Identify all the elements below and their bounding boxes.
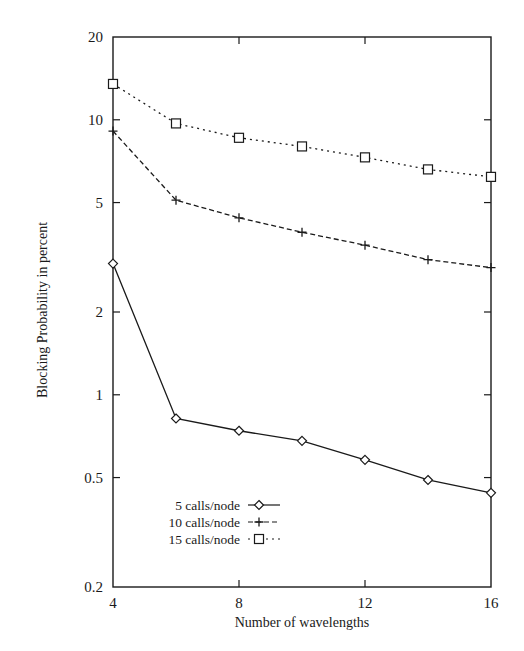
plus-marker-icon [361, 241, 370, 250]
series-line [113, 264, 491, 493]
square-marker-icon [361, 153, 370, 162]
diamond-marker-icon [235, 426, 244, 435]
series-line [113, 84, 491, 177]
square-marker-icon [172, 119, 181, 128]
x-tick-label: 4 [109, 595, 117, 611]
x-tick-label: 16 [484, 595, 500, 611]
square-marker-icon [298, 142, 307, 151]
legend-item: 5 calls/node [175, 498, 280, 513]
series-layer [109, 79, 496, 497]
y-axis-title: Blocking Probability in percent [35, 222, 50, 398]
diamond-marker-icon [255, 501, 264, 510]
plus-marker-icon [235, 213, 244, 222]
plus-marker-icon [298, 228, 307, 237]
y-tick-label: 10 [88, 112, 103, 128]
diamond-marker-icon [361, 455, 370, 464]
legend-label: 5 calls/node [175, 498, 240, 513]
legend-item: 15 calls/node [168, 532, 280, 547]
series-15-calls-node [109, 79, 496, 181]
diamond-marker-icon [172, 414, 181, 423]
diamond-marker-icon [487, 488, 496, 497]
x-tick-label: 12 [358, 595, 373, 611]
y-tick-label: 5 [96, 195, 104, 211]
y-tick-label: 20 [88, 29, 103, 45]
series-5-calls-node [109, 259, 496, 497]
square-marker-icon [424, 165, 433, 174]
x-axis-title: Number of wavelengths [235, 615, 370, 630]
square-marker-icon [255, 535, 264, 544]
chart: 0.20.51251020 481216 Number of wavelengt… [0, 0, 524, 651]
plus-marker-icon [487, 263, 496, 272]
y-tick-label: 1 [96, 387, 104, 403]
plus-marker-icon [424, 255, 433, 264]
square-marker-icon [235, 133, 244, 142]
diamond-marker-icon [298, 436, 307, 445]
legend: 5 calls/node10 calls/node15 calls/node [168, 498, 280, 547]
y-axis: 0.20.51251020 [84, 29, 491, 595]
plus-marker-icon [255, 518, 264, 527]
line-chart: 0.20.51251020 481216 Number of wavelengt… [0, 0, 524, 651]
x-tick-label: 8 [235, 595, 243, 611]
y-tick-label: 0.2 [84, 579, 103, 595]
legend-label: 10 calls/node [168, 515, 240, 530]
diamond-marker-icon [424, 475, 433, 484]
y-tick-label: 2 [96, 304, 104, 320]
diamond-marker-icon [109, 259, 118, 268]
y-tick-label: 0.5 [84, 470, 103, 486]
legend-label: 15 calls/node [168, 532, 240, 547]
square-marker-icon [109, 79, 118, 88]
legend-item: 10 calls/node [168, 515, 280, 530]
square-marker-icon [487, 172, 496, 181]
